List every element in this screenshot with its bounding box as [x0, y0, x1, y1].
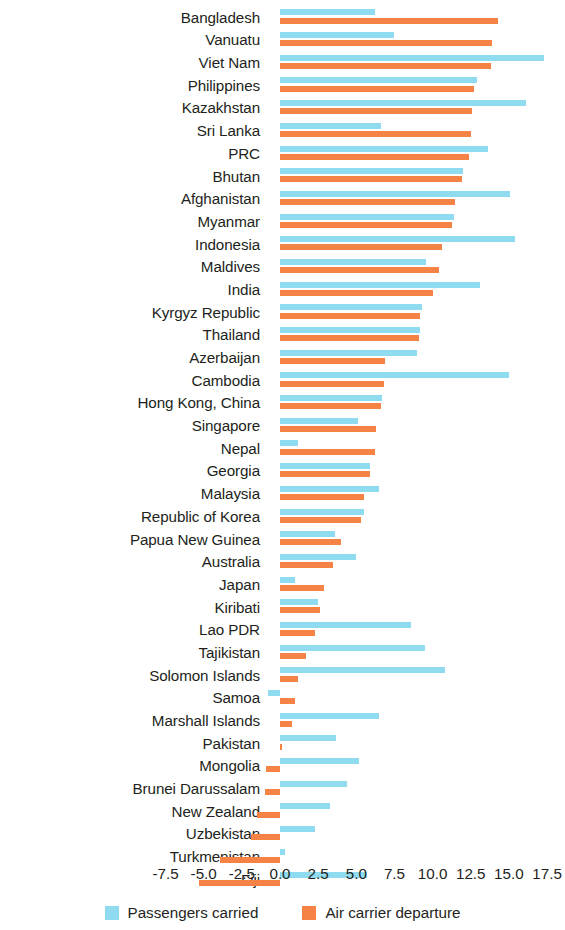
chart-row: Uzbekistan [0, 823, 565, 846]
bar-air-carrier-departure [280, 381, 384, 387]
bar-passengers-carried [280, 236, 515, 242]
chart-row: Bhutan [0, 165, 565, 188]
x-axis-tick-label: 0.0 [269, 866, 290, 881]
bar-air-carrier-departure [280, 244, 442, 250]
bar-passengers-carried [280, 735, 336, 741]
bar-air-carrier-departure [280, 653, 306, 659]
bar-air-carrier-departure [280, 40, 492, 46]
bar-passengers-carried [280, 667, 445, 673]
bar-passengers-carried [268, 690, 280, 696]
bar-air-carrier-departure [280, 585, 324, 591]
x-axis-tick-label: -5.0 [191, 866, 217, 881]
chart-row: Lao PDR [0, 619, 565, 642]
bar-air-carrier-departure [280, 494, 364, 500]
bar-air-carrier-departure [280, 131, 471, 137]
chart-row: Bangladesh [0, 6, 565, 29]
bar-air-carrier-departure [266, 766, 280, 772]
bar-air-carrier-departure [251, 834, 280, 840]
bar-group [0, 119, 565, 142]
bar-passengers-carried [280, 554, 356, 560]
bar-passengers-carried [280, 350, 417, 356]
chart-row: Sri Lanka [0, 119, 565, 142]
bar-air-carrier-departure [280, 426, 376, 432]
chart-row: Myanmar [0, 210, 565, 233]
bar-group [0, 51, 565, 74]
x-axis-tick-label: -2.5 [229, 866, 255, 881]
bar-group [0, 664, 565, 687]
bar-air-carrier-departure [280, 471, 370, 477]
bar-group [0, 210, 565, 233]
legend-entry-passengers-carried: Passengers carried [105, 905, 259, 920]
chart-row: Maldives [0, 256, 565, 279]
bar-air-carrier-departure [280, 721, 292, 727]
legend-swatch-blue-icon [105, 906, 119, 920]
bar-group [0, 369, 565, 392]
bar-air-carrier-departure [220, 857, 280, 863]
chart-row: Vanuatu [0, 29, 565, 52]
bar-group [0, 324, 565, 347]
bar-group [0, 97, 565, 120]
chart-row: India [0, 278, 565, 301]
bar-group [0, 414, 565, 437]
bar-passengers-carried [280, 645, 425, 651]
bar-group [0, 392, 565, 415]
chart-row: Tajikistan [0, 641, 565, 664]
bar-group [0, 777, 565, 800]
chart-row: Viet Nam [0, 51, 565, 74]
legend-label-passengers-carried: Passengers carried [128, 905, 259, 920]
chart-row: Marshall Islands [0, 709, 565, 732]
bar-air-carrier-departure [280, 539, 341, 545]
bar-air-carrier-departure [257, 812, 280, 818]
chart-row: Indonesia [0, 233, 565, 256]
bar-passengers-carried [280, 849, 285, 855]
bar-air-carrier-departure [280, 744, 282, 750]
bar-air-carrier-departure [280, 607, 320, 613]
bar-air-carrier-departure [280, 199, 455, 205]
chart-row: Solomon Islands [0, 664, 565, 687]
bar-group [0, 551, 565, 574]
bar-passengers-carried [280, 32, 394, 38]
bar-group [0, 755, 565, 778]
bar-air-carrier-departure [280, 222, 452, 228]
bar-air-carrier-departure [280, 108, 472, 114]
legend-swatch-orange-icon [302, 906, 316, 920]
x-axis-tick-label: 12.5 [456, 866, 486, 881]
bar-air-carrier-departure [280, 176, 462, 182]
bar-passengers-carried [280, 463, 370, 469]
chart-row: Republic of Korea [0, 505, 565, 528]
bar-passengers-carried [280, 599, 318, 605]
bar-air-carrier-departure [280, 154, 469, 160]
chart-row: Kiribati [0, 596, 565, 619]
bar-passengers-carried [280, 146, 488, 152]
bar-passengers-carried [280, 803, 330, 809]
bar-passengers-carried [280, 123, 381, 129]
bar-group [0, 482, 565, 505]
bar-passengers-carried [280, 486, 379, 492]
bar-group [0, 460, 565, 483]
chart-row: Cambodia [0, 369, 565, 392]
bar-air-carrier-departure [280, 290, 433, 296]
bar-passengers-carried [280, 781, 347, 787]
bar-air-carrier-departure [280, 630, 315, 636]
chart-legend: Passengers carried Air carrier departure [0, 901, 565, 925]
bar-air-carrier-departure [280, 358, 385, 364]
bar-group [0, 74, 565, 97]
bar-passengers-carried [280, 259, 426, 265]
bar-group [0, 256, 565, 279]
bar-air-carrier-departure [280, 449, 375, 455]
chart-row: Pakistan [0, 732, 565, 755]
chart-row: Mongolia [0, 755, 565, 778]
chart-row: Samoa [0, 687, 565, 710]
bar-group [0, 732, 565, 755]
bar-air-carrier-departure [265, 789, 280, 795]
bar-group [0, 596, 565, 619]
bar-air-carrier-departure [280, 698, 295, 704]
x-axis-tick-label: -7.5 [152, 866, 178, 881]
bar-group [0, 6, 565, 29]
chart-row: Georgia [0, 460, 565, 483]
bar-passengers-carried [280, 395, 382, 401]
x-axis-tick-label: 7.5 [384, 866, 405, 881]
bar-passengers-carried [280, 531, 335, 537]
x-axis-tick-label: 15.0 [494, 866, 524, 881]
bar-group [0, 188, 565, 211]
